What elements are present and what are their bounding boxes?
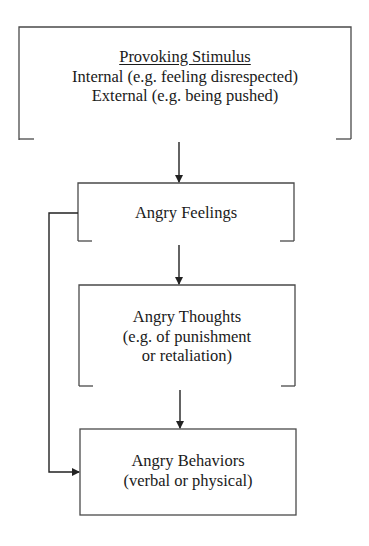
node-angry-feelings: Angry Feelings <box>78 203 294 223</box>
anger-flow-diagram: Provoking Stimulus Internal (e.g. feelin… <box>0 0 369 546</box>
node-angry-thoughts: Angry Thoughts (e.g. of punishment or re… <box>79 307 295 366</box>
node-detail: Internal (e.g. feeling disrespected) <box>19 67 351 87</box>
node-title: Provoking Stimulus <box>19 47 351 67</box>
node-title: Angry Thoughts <box>79 307 295 327</box>
node-detail: (e.g. of punishment <box>79 327 295 347</box>
node-detail: External (e.g. being pushed) <box>19 86 351 106</box>
node-provoking-stimulus: Provoking Stimulus Internal (e.g. feelin… <box>19 47 351 106</box>
node-title: Angry Behaviors <box>80 451 296 471</box>
node-angry-behaviors: Angry Behaviors (verbal or physical) <box>80 451 296 490</box>
node-detail: or retaliation) <box>79 346 295 366</box>
node-title: Angry Feelings <box>78 203 294 223</box>
arrow-feelings-to-behaviors-bypass <box>49 213 79 472</box>
node-detail: (verbal or physical) <box>80 471 296 491</box>
